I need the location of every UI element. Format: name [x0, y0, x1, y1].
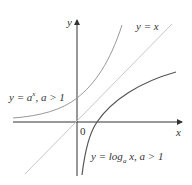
function-graph: y x 0 y = x y = ax, a > 1 y = loga x, a …: [0, 0, 192, 185]
exponential-curve: [13, 25, 122, 118]
y-axis-label: y: [66, 16, 72, 28]
exponential-label: y = ax, a > 1: [8, 90, 65, 103]
identity-label: y = x: [135, 20, 159, 32]
x-axis-label: x: [175, 126, 181, 138]
origin-label: 0: [80, 125, 86, 137]
logarithm-label: y = loga x, a > 1: [90, 150, 163, 165]
